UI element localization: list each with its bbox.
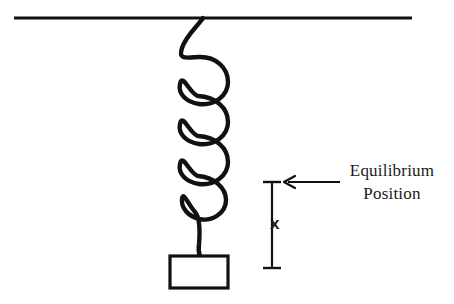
displacement-label: x (270, 214, 279, 234)
helical-spring (180, 18, 228, 257)
equilibrium-position-label: EquilibriumPosition (330, 159, 454, 205)
equilibrium-label-line-1: Equilibrium (350, 161, 434, 180)
equilibrium-label-line-2: Position (330, 182, 454, 205)
diagram-canvas (0, 0, 454, 304)
spring-mass-diagram: x EquilibriumPosition (0, 0, 454, 304)
hanging-mass-block (170, 256, 228, 288)
